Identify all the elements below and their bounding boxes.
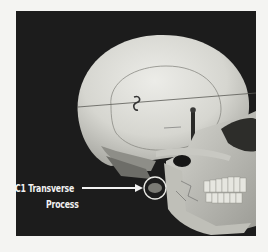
skull-photo-frame: C1 Transverse Process <box>16 11 256 236</box>
arrow-head-icon <box>135 184 143 192</box>
annotation-label-line2: Process <box>46 198 79 210</box>
teeth <box>204 177 246 203</box>
annotation-label-line1: C1 Transverse <box>16 182 74 194</box>
